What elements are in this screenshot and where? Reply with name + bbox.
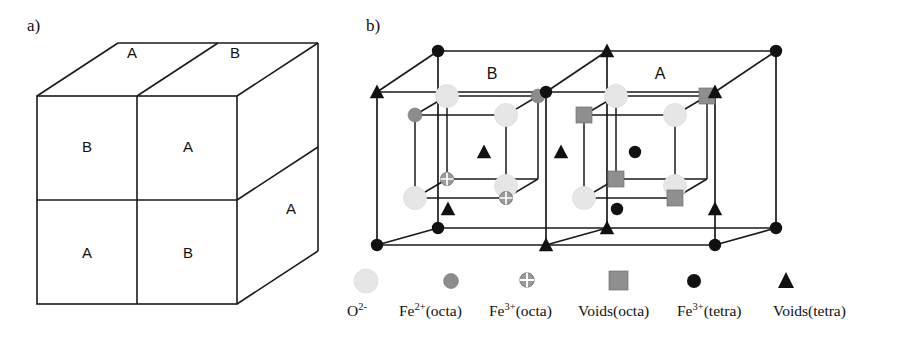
- legend-symbol-voids-tetra: [778, 272, 794, 288]
- legend-symbol-fe3-tetra: [687, 274, 701, 288]
- legend-label-fe2-octa-main: Fe: [399, 302, 415, 319]
- legend-label-fe3-octa-main: Fe: [489, 302, 505, 319]
- legend-label-fe3-tetra-sup: 3+: [693, 301, 704, 312]
- legend-label-voids-octa-main: Voids: [578, 302, 613, 319]
- legend-label-voids-octa: Voids(octa): [578, 302, 649, 320]
- legend-symbol-fe2-octa: [444, 274, 459, 289]
- legend-label-o2-minus-sup: 2-: [358, 301, 367, 312]
- legend-label-fe2-octa-suffix: (octa): [426, 302, 462, 319]
- legend-symbol-fe3-octa: [520, 273, 534, 287]
- legend-label-fe3-octa: Fe3+(octa): [489, 302, 552, 320]
- legend-symbols: [0, 0, 899, 343]
- legend-label-fe2-octa: Fe2+(octa): [399, 302, 462, 320]
- legend-label-fe3-tetra-suffix: (tetra): [704, 302, 742, 319]
- legend-label-fe3-tetra: Fe3+(tetra): [677, 302, 742, 320]
- legend-label-fe3-octa-sup: 3+: [505, 301, 516, 312]
- legend-label-o2-minus: O2-: [347, 302, 367, 320]
- legend-label-fe3-octa-suffix: (octa): [516, 302, 552, 319]
- legend-label-voids-tetra-suffix: (tetra): [808, 302, 846, 319]
- legend-label-fe2-octa-sup: 2+: [415, 301, 426, 312]
- legend-label-voids-octa-suffix: (octa): [613, 302, 649, 319]
- legend-label-fe3-tetra-main: Fe: [677, 302, 693, 319]
- legend-symbol-o2-minus: [354, 269, 378, 293]
- legend-label-o2-minus-main: O: [347, 302, 358, 319]
- legend-symbol-voids-octa: [609, 271, 628, 290]
- figure-container: a) A B B A A B A b): [0, 0, 899, 343]
- legend-label-voids-tetra: Voids(tetra): [773, 302, 846, 320]
- legend-label-voids-tetra-main: Voids: [773, 302, 808, 319]
